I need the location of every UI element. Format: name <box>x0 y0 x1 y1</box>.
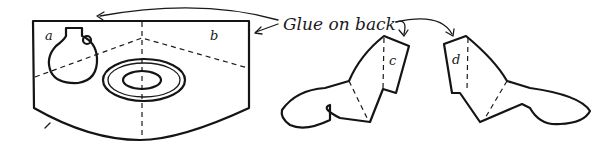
craft-diagram: a b Glue on back c d <box>0 0 611 158</box>
left-wing-piece: c <box>282 36 409 128</box>
jug-icon <box>49 28 97 83</box>
label-a: a <box>45 28 53 43</box>
dish-icon <box>103 59 185 101</box>
glue-label: Glue on back <box>283 14 396 34</box>
label-c: c <box>389 53 397 68</box>
right-wing-piece: d <box>444 36 590 124</box>
backdrop-panel: a b <box>33 21 249 140</box>
label-d: d <box>452 52 460 67</box>
label-b: b <box>210 28 218 43</box>
